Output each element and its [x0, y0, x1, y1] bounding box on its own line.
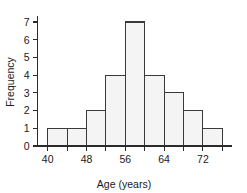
- y-tick-label: 3: [24, 87, 30, 99]
- x-tick-marks: [48, 146, 223, 151]
- histogram-bar: [145, 75, 164, 146]
- histogram-bar: [164, 93, 183, 146]
- y-tick-label: 4: [24, 69, 30, 81]
- x-axis-title: Age (years): [97, 178, 151, 190]
- y-axis: 01234567: [24, 16, 38, 152]
- y-tick-label: 7: [24, 16, 30, 28]
- histogram-bar: [48, 128, 67, 146]
- x-tick-label: 48: [81, 153, 93, 165]
- histogram-bar: [87, 111, 106, 146]
- x-tick-label: 56: [119, 153, 131, 165]
- x-tick-label: 64: [158, 153, 170, 165]
- histogram-svg: 4048566472 01234567 Age (years) Frequenc…: [0, 0, 247, 193]
- y-tick-label: 1: [24, 122, 30, 134]
- y-tick-marks: [33, 22, 38, 146]
- histogram-bar: [203, 128, 222, 146]
- histogram-bar: [184, 111, 203, 146]
- y-tick-label: 5: [24, 51, 30, 63]
- histogram-chart: 4048566472 01234567 Age (years) Frequenc…: [0, 0, 247, 193]
- y-tick-labels: 01234567: [24, 16, 30, 152]
- histogram-bar: [106, 75, 125, 146]
- histogram-bar: [125, 22, 144, 146]
- x-tick-labels: 4048566472: [42, 153, 209, 165]
- y-axis-title: Frequency: [4, 56, 16, 106]
- x-axis: 4048566472: [38, 146, 232, 165]
- y-tick-label: 0: [24, 140, 30, 152]
- x-tick-label: 40: [42, 153, 54, 165]
- bars-group: [48, 22, 223, 146]
- y-tick-label: 2: [24, 104, 30, 116]
- x-tick-label: 72: [197, 153, 209, 165]
- y-tick-label: 6: [24, 34, 30, 46]
- histogram-bar: [67, 128, 86, 146]
